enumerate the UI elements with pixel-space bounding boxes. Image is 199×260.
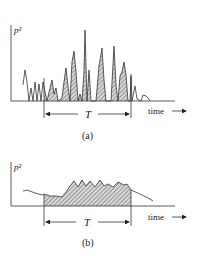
figure-canvas: T p² time (a) T p² time (b) (0, 0, 199, 260)
x-axis-label-b: time (148, 212, 164, 222)
x-axis-label-a: time (148, 106, 164, 116)
interval-label-b: T (84, 216, 91, 228)
y-axis-label-b: p² (13, 162, 22, 172)
caption-a: (a) (82, 130, 93, 142)
caption-b: (b) (82, 237, 94, 249)
figure-b: T p² time (b) (11, 162, 186, 249)
y-axis-label-a: p² (13, 25, 22, 35)
figure-a: T p² time (a) (11, 25, 186, 142)
interval-label-a: T (85, 108, 92, 120)
